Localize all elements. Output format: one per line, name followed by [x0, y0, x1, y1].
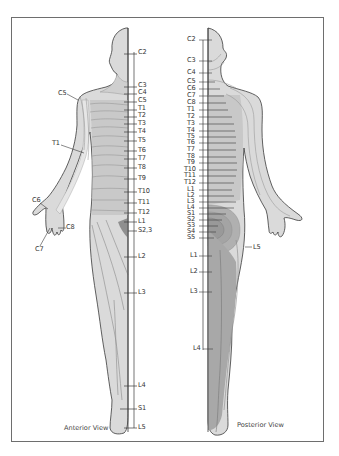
dermatome-label: C2	[187, 36, 195, 43]
dermatome-label: C4	[187, 69, 195, 76]
dermatome-label: T8	[138, 164, 146, 171]
dermatome-label: T4	[138, 128, 146, 135]
dermatome-label: L5	[253, 244, 260, 251]
posterior-view-caption: Posterior View	[237, 421, 284, 429]
dermatome-label: T12	[138, 209, 150, 216]
dermatome-label: S2,3	[138, 227, 152, 234]
dermatome-label: T2	[138, 112, 146, 119]
dermatome-label: T7	[138, 155, 146, 162]
dermatome-figures	[0, 0, 339, 456]
dermatome-label: C2	[138, 49, 146, 56]
dermatome-label: L1	[190, 252, 197, 259]
dermatome-label: L2	[138, 253, 145, 260]
dermatome-label: C5	[58, 90, 66, 97]
dermatome-label: T10	[138, 188, 150, 195]
dermatome-label: L4	[193, 345, 200, 352]
posterior-figure	[199, 28, 302, 435]
dermatome-label: C3	[187, 57, 195, 64]
dermatome-label: L4	[138, 382, 145, 389]
dermatome-label: L5	[138, 424, 145, 431]
anterior-figure	[33, 28, 137, 434]
dermatome-label: C6	[32, 197, 40, 204]
dermatome-label: C8	[66, 224, 74, 231]
dermatome-label: L3	[190, 288, 197, 295]
dermatome-label: S1	[138, 405, 146, 412]
dermatome-label: C4	[138, 89, 146, 96]
dermatome-label: T3	[138, 120, 146, 127]
anterior-view-caption: Anterior View	[64, 424, 108, 432]
dermatome-label: C5	[138, 97, 146, 104]
dermatome-label: C7	[35, 246, 43, 253]
dermatome-label: S5	[187, 234, 195, 241]
dermatome-label: T1	[52, 140, 60, 147]
dermatome-label: L2	[190, 268, 197, 275]
dermatome-label: T9	[138, 175, 146, 182]
dermatome-label: T5	[138, 137, 146, 144]
dermatome-label: L3	[138, 289, 145, 296]
dermatome-label: L1	[138, 218, 145, 225]
dermatome-label: T11	[138, 199, 150, 206]
dermatome-label: T6	[138, 147, 146, 154]
